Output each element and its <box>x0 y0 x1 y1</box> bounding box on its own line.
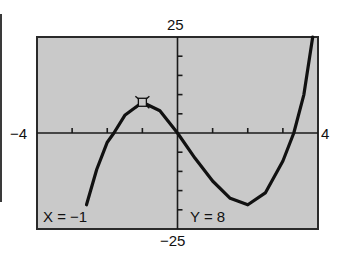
x-readout: X = −1 <box>43 209 87 224</box>
y-max-label: 25 <box>167 17 184 32</box>
y-readout: Y = 8 <box>190 209 225 224</box>
y-min-label: −25 <box>160 233 185 248</box>
x-max-label: 4 <box>321 126 329 141</box>
x-min-label: −4 <box>10 126 27 141</box>
